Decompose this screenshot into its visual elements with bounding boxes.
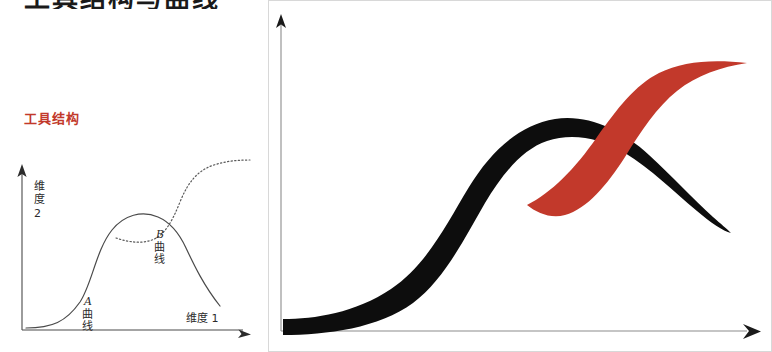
x-axis-label: 维度 1	[186, 311, 219, 325]
curve-a-annotation: A 曲 线	[82, 295, 93, 333]
right-y-axis	[276, 14, 286, 331]
curve-b-letter: B	[155, 228, 164, 241]
left-chart-svg: 维 度 2 维度 1 A 曲 线 B 曲 线	[0, 90, 268, 352]
y-axis	[17, 164, 26, 330]
curve-b-label-line2: 线	[154, 252, 165, 266]
curve-a-label-line2: 线	[82, 319, 93, 333]
page-title-text: 工具结构与曲线	[24, 0, 220, 9]
curve-a-path	[26, 214, 220, 328]
left-diagram-panel: 工具结构 维 度 2 维度 1	[0, 90, 268, 352]
y-axis-label-line1: 维	[34, 180, 45, 193]
curve-a-letter: A	[83, 295, 92, 308]
black-brush-stroke	[283, 118, 731, 335]
curve-b-annotation: B 曲 线	[154, 228, 165, 266]
curve-b-path	[116, 160, 250, 242]
right-diagram-panel	[268, 0, 772, 352]
y-axis-label: 维 度 2	[34, 180, 45, 220]
x-axis	[22, 330, 251, 339]
red-brush-stroke	[527, 61, 747, 216]
page-root: 工具结构与曲线 工具结构 维 度 2	[0, 0, 772, 352]
y-axis-label-line2: 度	[34, 192, 45, 206]
right-chart-svg	[269, 1, 772, 352]
y-axis-label-line3: 2	[34, 207, 41, 220]
